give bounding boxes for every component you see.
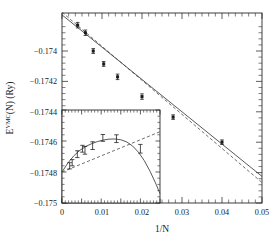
main-marker [116,75,119,78]
x-ticklabel: 0.04 [215,208,229,217]
y-ticklabel: −0.1742 [30,77,57,86]
y-ticklabel: −0.175 [34,199,57,208]
main-marker [76,24,79,27]
y-ticklabel: −0.174 [34,47,57,56]
main-marker [102,62,105,65]
y-axis-title-superscript: VMC [4,114,11,128]
y-axis-title-argument: (N) [5,101,16,114]
y-ticklabel: −0.1748 [30,169,57,178]
figure-container: −0.174−0.1742−0.1744−0.1746−0.1748−0.175… [0,0,274,244]
y-ticklabel: −0.1744 [30,108,57,117]
x-axis-title: 1/N [155,224,169,234]
main-y-ticklabels: −0.174−0.1742−0.1744−0.1746−0.1748−0.175 [30,47,57,208]
y-ticklabel: −0.1746 [30,138,57,147]
y-axis-title-units: (Ry) [5,82,16,99]
svg-text:EVMC(N) (Ry): EVMC(N) (Ry) [4,82,16,135]
main-marker [141,95,144,98]
main-x-ticklabels: 00.010.020.030.040.05 [60,208,269,217]
y-axis-title: EVMC(N) (Ry) [4,82,16,135]
inset-panel [62,110,160,203]
inset-background [62,110,160,203]
main-marker [92,50,95,53]
x-ticklabel: 0.03 [175,208,189,217]
x-ticklabel: 0.01 [95,208,109,217]
chart-svg: −0.174−0.1742−0.1744−0.1746−0.1748−0.175… [0,0,274,244]
x-ticklabel: 0.05 [255,208,269,217]
x-ticklabel: 0.02 [135,208,149,217]
x-ticklabel: 0 [60,208,64,217]
main-marker [221,141,224,144]
main-marker [84,31,87,34]
main-marker [172,116,175,119]
